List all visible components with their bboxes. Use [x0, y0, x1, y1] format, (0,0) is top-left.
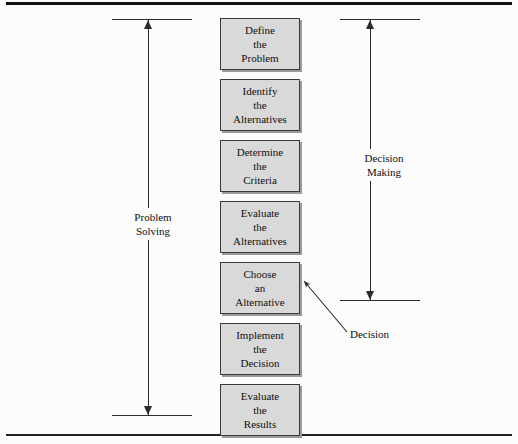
step-line-3: Alternative — [235, 295, 284, 309]
step-line-1: Choose — [244, 267, 277, 281]
decision-making-label-line-1: Decision — [344, 151, 424, 165]
decision-making-label-line-2: Making — [344, 165, 424, 179]
step-line-2: the — [253, 403, 266, 417]
decision-making-arrow-down-icon — [366, 291, 374, 300]
step-box-identify-the-alternatives[interactable]: Identify the Alternatives — [220, 79, 300, 131]
decision-making-bracket-top-cap — [340, 19, 420, 20]
decision-callout-label: Decision — [350, 327, 389, 341]
step-box-implement-the-decision[interactable]: Implement the Decision — [220, 323, 300, 375]
step-line-3: Alternatives — [233, 234, 287, 248]
problem-solving-bracket-bottom-cap — [112, 415, 192, 416]
step-box-choose-an-alternative[interactable]: Choose an Alternative — [220, 262, 300, 314]
problem-solving-label: Problem Solving — [107, 208, 199, 240]
step-line-2: the — [253, 98, 266, 112]
step-line-1: Evaluate — [241, 389, 279, 403]
step-line-2: an — [255, 281, 265, 295]
step-line-2: the — [253, 220, 266, 234]
problem-solving-bracket-top-cap — [112, 19, 192, 20]
step-line-1: Evaluate — [241, 206, 279, 220]
step-line-2: the — [253, 37, 266, 51]
problem-solving-arrow-down-icon — [144, 406, 152, 415]
step-box-evaluate-the-alternatives[interactable]: Evaluate the Alternatives — [220, 201, 300, 253]
problem-solving-label-line-2: Solving — [111, 224, 195, 238]
step-line-3: Criteria — [243, 173, 277, 187]
step-line-3: Decision — [240, 356, 279, 370]
step-line-3: Alternatives — [233, 112, 287, 126]
step-box-define-the-problem[interactable]: Define the Problem — [220, 18, 300, 70]
figure-canvas: Problem Solving Define the Problem Ident… — [0, 0, 518, 444]
step-box-evaluate-the-results[interactable]: Evaluate the Results — [220, 384, 300, 436]
decision-making-arrow-up-icon — [366, 20, 374, 29]
step-line-1: Determine — [237, 145, 283, 159]
step-line-1: Define — [245, 23, 275, 37]
problem-solving-label-line-1: Problem — [111, 210, 195, 224]
step-line-1: Implement — [236, 328, 284, 342]
step-line-1: Identify — [243, 84, 278, 98]
step-line-3: Results — [244, 417, 276, 431]
step-line-2: the — [253, 159, 266, 173]
step-line-2: the — [253, 342, 266, 356]
decision-making-label: Decision Making — [340, 149, 428, 181]
problem-solving-arrow-up-icon — [144, 20, 152, 29]
step-line-3: Problem — [241, 51, 278, 65]
top-rule — [6, 2, 512, 5]
step-box-determine-the-criteria[interactable]: Determine the Criteria — [220, 140, 300, 192]
